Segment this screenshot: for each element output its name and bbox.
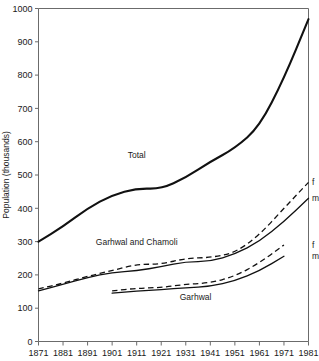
y-tick-label: 300 bbox=[17, 237, 32, 247]
y-tick-label: 400 bbox=[17, 204, 32, 214]
chart-annotations: TotalGarhwal and ChamoliGarhwalfmfm bbox=[96, 150, 319, 302]
x-tick-label: 1931 bbox=[176, 348, 196, 358]
x-tick-label: 1981 bbox=[298, 348, 318, 358]
population-line-chart: 01002003004005006007008009001000 1871188… bbox=[0, 0, 319, 361]
x-tick-label: 1921 bbox=[151, 348, 171, 358]
chart-series-lines bbox=[39, 19, 309, 293]
annot-total: Total bbox=[128, 150, 146, 160]
y-tick-label: 0 bbox=[27, 337, 32, 347]
end-label-g-m: m bbox=[312, 251, 319, 261]
x-tick-label: 1871 bbox=[28, 348, 48, 358]
x-tick-label: 1891 bbox=[78, 348, 98, 358]
series-line-total bbox=[39, 19, 309, 241]
x-tick-label: 1961 bbox=[249, 348, 269, 358]
y-tick-label: 800 bbox=[17, 70, 32, 80]
y-tick-label: 900 bbox=[17, 37, 32, 47]
x-tick-label: 1951 bbox=[225, 348, 245, 358]
annot-garhwal-and-chamoli: Garhwal and Chamoli bbox=[96, 237, 178, 247]
annot-garhwal: Garhwal bbox=[180, 292, 212, 302]
y-tick-label: 1000 bbox=[12, 4, 32, 14]
x-tick-label: 1881 bbox=[53, 348, 73, 358]
end-label-gc-m: m bbox=[312, 193, 319, 203]
y-axis-title-text: Population (thousands) bbox=[1, 131, 11, 219]
y-axis-title: Population (thousands) bbox=[1, 131, 11, 219]
chart-canvas: 01002003004005006007008009001000 1871188… bbox=[0, 0, 319, 361]
x-axis-ticks: 1871188118911901191119211931194119511961… bbox=[28, 342, 318, 359]
series-line-garhwal-f bbox=[112, 245, 284, 291]
x-tick-label: 1941 bbox=[200, 348, 220, 358]
chart-axes bbox=[39, 9, 309, 342]
x-tick-label: 1971 bbox=[274, 348, 294, 358]
series-line-garhwal-and-chamoli-f bbox=[39, 182, 309, 289]
y-tick-label: 200 bbox=[17, 270, 32, 280]
end-label-gc-f: f bbox=[312, 177, 315, 187]
x-tick-label: 1911 bbox=[127, 348, 146, 358]
axis-frame bbox=[39, 9, 309, 342]
end-label-g-f: f bbox=[312, 240, 315, 250]
y-tick-label: 500 bbox=[17, 170, 32, 180]
y-axis-ticks: 01002003004005006007008009001000 bbox=[12, 4, 38, 347]
y-tick-label: 700 bbox=[17, 104, 32, 114]
x-tick-label: 1901 bbox=[102, 348, 122, 358]
y-tick-label: 600 bbox=[17, 137, 32, 147]
y-tick-label: 100 bbox=[17, 303, 32, 313]
